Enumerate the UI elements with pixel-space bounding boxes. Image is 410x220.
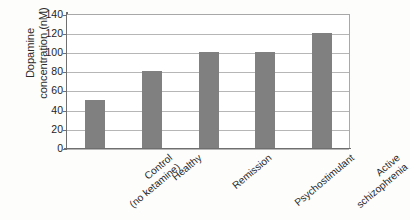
y-axis-tick-label: 40 xyxy=(37,104,63,115)
y-axis-tick-labels: 020406080100120140 xyxy=(37,8,63,154)
bar xyxy=(142,71,162,148)
bars-layer xyxy=(67,14,350,149)
x-axis-tick-labels: Control(no ketamine)HealthyRemissionPsyc… xyxy=(0,150,361,220)
y-axis-title-line-1: Dopamine xyxy=(24,28,37,78)
x-axis-tick-label: Psychostimulant xyxy=(292,152,357,209)
y-axis-tick-label: 120 xyxy=(37,27,63,38)
y-axis-tick-label: 100 xyxy=(37,46,63,57)
y-axis-tick-label: 20 xyxy=(37,123,63,134)
x-axis-tick-label-line: Psychostimulant xyxy=(292,152,357,209)
y-axis-tick-label: 140 xyxy=(37,8,63,19)
bar xyxy=(312,33,332,148)
bar xyxy=(255,52,275,148)
x-axis-tick-label-line: Remission xyxy=(230,152,274,192)
y-axis-tick-label: 60 xyxy=(37,85,63,96)
bar xyxy=(85,100,105,148)
x-axis-tick-label: Control(no ketamine) xyxy=(120,152,183,210)
y-axis-tick-label: 80 xyxy=(37,66,63,77)
bar xyxy=(199,52,219,148)
x-axis-tick-label: Remission xyxy=(230,152,274,192)
